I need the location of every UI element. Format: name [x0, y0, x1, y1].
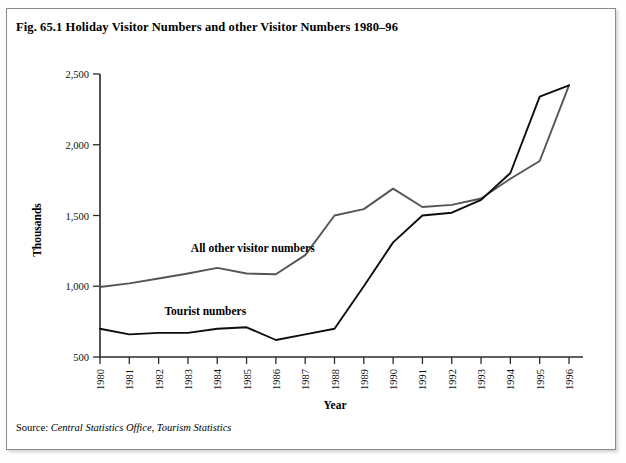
x-tick-label: 1988	[330, 369, 341, 390]
series-line-tourist-numbers	[100, 85, 569, 340]
y-axis-ticks: 5001,0001,5002,0002,500	[65, 69, 100, 363]
x-tick-label: 1980	[95, 369, 106, 390]
x-tick-label: 1987	[300, 369, 311, 390]
x-axis-title: Year	[324, 399, 347, 411]
x-axis-ticks: 1980198119821983198419851986198719881989…	[95, 357, 575, 390]
x-tick-label: 1985	[242, 369, 253, 390]
x-tick-label: 1986	[271, 369, 282, 390]
x-tick-label: 1992	[447, 369, 458, 390]
y-tick-label: 500	[73, 352, 89, 363]
x-tick-label: 1983	[183, 369, 194, 390]
x-tick-label: 1982	[154, 369, 165, 390]
x-tick-label: 1996	[564, 369, 575, 390]
x-tick-label: 1994	[505, 368, 516, 390]
y-tick-label: 1,000	[65, 281, 89, 292]
y-axis-title: Thousands	[31, 203, 43, 257]
series-label-all-other-visitors: All other visitor numbers	[191, 242, 315, 254]
series-label-tourist-numbers: Tourist numbers	[164, 305, 246, 317]
x-tick-label: 1993	[476, 369, 487, 390]
x-tick-label: 1984	[212, 368, 223, 390]
series-annotations: All other visitor numbersTourist numbers	[164, 242, 315, 317]
x-tick-label: 1991	[417, 369, 428, 390]
series-line-all-other-visitors	[100, 85, 569, 287]
x-tick-label: 1995	[535, 369, 546, 390]
y-tick-label: 2,000	[65, 140, 89, 151]
line-chart: 5001,0001,5002,0002,500 1980198119821983…	[0, 0, 626, 463]
x-tick-label: 1989	[359, 369, 370, 390]
y-tick-label: 2,500	[65, 69, 89, 80]
figure-page: Fig. 65.1 Holiday Visitor Numbers and ot…	[0, 0, 626, 463]
series-layer	[100, 85, 569, 340]
x-tick-label: 1981	[124, 369, 135, 390]
x-tick-label: 1990	[388, 369, 399, 390]
y-tick-label: 1,500	[65, 211, 89, 222]
